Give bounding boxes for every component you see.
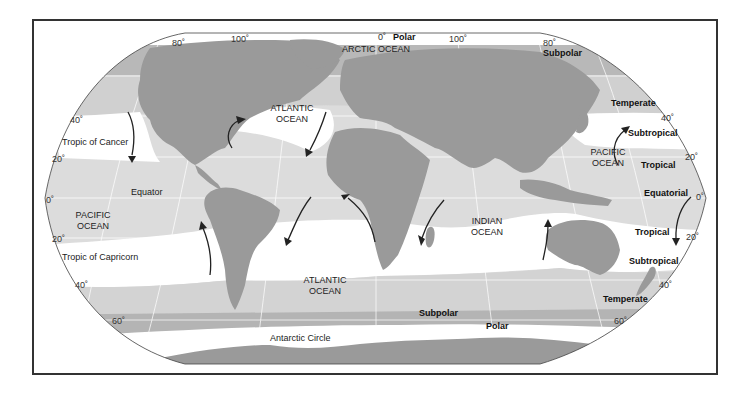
world-ocean-zones-map: ARCTIC OCEAN ATLANTIC OCEAN PACIFIC OCEA… [0,0,752,397]
zone-label-polar-north: Polar [393,32,416,42]
zone-label-temperate-south: Temperate [603,294,648,304]
label-equator: Equator [131,187,163,197]
lat-left-0: 0˚ [46,195,54,205]
label-atlantic-south-2: OCEAN [309,286,341,296]
label-atlantic-north-1: ATLANTIC [271,103,314,113]
label-tropic-of-capricorn: Tropic of Capricorn [62,252,138,262]
lat-left-40n: 40˚ [70,115,83,125]
lat-right-20s: 20˚ [686,232,699,242]
lat-left-20s: 20˚ [52,234,65,244]
label-pacific-west-2: OCEAN [592,158,624,168]
lat-left-60s: 60˚ [112,316,125,326]
zone-label-subpolar-north: Subpolar [543,48,582,58]
lat-right-60s: 60˚ [614,316,627,326]
label-pacific-west-1: PACIFIC [591,147,626,157]
lat-right-40n: 40˚ [661,113,674,123]
zone-label-tropical-south: Tropical [635,227,670,237]
label-atlantic-south-1: ATLANTIC [304,275,347,285]
label-antarctic-circle: Antarctic Circle [270,333,331,343]
label-indian-ocean-1: INDIAN [472,216,503,226]
lat-right-20n: 20˚ [685,152,698,162]
label-pacific-east-1: PACIFIC [76,210,111,220]
lon-0: 0˚ [378,32,386,42]
zone-label-equatorial: Equatorial [644,188,688,198]
label-pacific-east-2: OCEAN [77,221,109,231]
lat-right-40s: 40˚ [659,280,672,290]
lon-100e: 100˚ [449,34,467,44]
label-indian-ocean-2: OCEAN [471,227,503,237]
ocean-zones [0,0,752,397]
lon-100w: 100˚ [231,34,249,44]
zone-label-tropical-north: Tropical [641,160,676,170]
zone-label-subtropical-north: Subtropical [628,128,678,138]
zone-label-polar-south: Polar [486,321,509,331]
label-arctic-ocean: ARCTIC OCEAN [342,44,410,54]
lon-80e: 80˚ [543,38,556,48]
zone-label-subtropical-south: Subtropical [629,256,679,266]
lat-right-0: 0˚ [696,192,704,202]
lon-80w: 80˚ [172,38,185,48]
lat-left-40s: 40˚ [75,280,88,290]
label-atlantic-north-2: OCEAN [276,114,308,124]
lat-left-20n: 20˚ [52,154,65,164]
zone-label-temperate-north: Temperate [611,98,656,108]
zone-label-subpolar-south: Subpolar [419,308,458,318]
label-tropic-of-cancer: Tropic of Cancer [62,137,128,147]
